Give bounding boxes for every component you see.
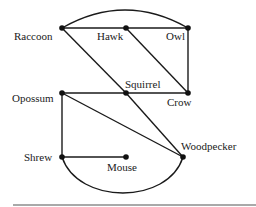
label-shrew: Shrew: [24, 151, 52, 163]
edge-raccoon-owl-arc: [62, 10, 188, 28]
node-hawk: [123, 25, 129, 31]
node-crow: [185, 90, 191, 96]
node-owl: [185, 25, 191, 31]
edge-opossum-woodpecker: [62, 93, 183, 157]
node-raccoon: [59, 25, 65, 31]
node-squirrel: [123, 90, 129, 96]
label-crow: Crow: [167, 96, 192, 108]
labels: Raccoon Hawk Owl Opossum Squirrel Crow S…: [12, 30, 237, 173]
node-woodpecker: [180, 154, 186, 160]
label-raccoon: Raccoon: [14, 30, 53, 42]
label-woodpecker: Woodpecker: [181, 140, 237, 152]
label-mouse: Mouse: [107, 161, 137, 173]
label-squirrel: Squirrel: [125, 78, 160, 90]
node-mouse: [123, 154, 129, 160]
node-opossum: [59, 90, 65, 96]
label-owl: Owl: [166, 30, 185, 42]
label-hawk: Hawk: [97, 30, 124, 42]
label-opossum: Opossum: [12, 92, 54, 104]
node-shrew: [59, 154, 65, 160]
graph-diagram: Raccoon Hawk Owl Opossum Squirrel Crow S…: [0, 0, 256, 207]
